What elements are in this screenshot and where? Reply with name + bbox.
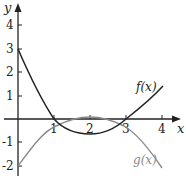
- y-tick-label: 3: [6, 42, 14, 56]
- g-curve-label: g(x): [133, 153, 157, 167]
- y-tick-label: 2: [6, 65, 14, 79]
- y-tick-label: -1: [2, 135, 14, 149]
- x-axis-label: x: [177, 121, 185, 136]
- y-tick-label: 1: [6, 89, 14, 103]
- function-graph: 1 2 3 4 4 3 2 1 -1 -2 x y f(x) g(x): [0, 0, 186, 180]
- y-tick-label: 4: [6, 18, 14, 32]
- y-axis-arrow-icon: [15, 3, 22, 12]
- y-axis-label: y: [3, 0, 12, 15]
- f-curve-label: f(x): [135, 80, 157, 94]
- y-tick-label: -2: [2, 159, 14, 173]
- x-tick-label: 4: [158, 122, 166, 136]
